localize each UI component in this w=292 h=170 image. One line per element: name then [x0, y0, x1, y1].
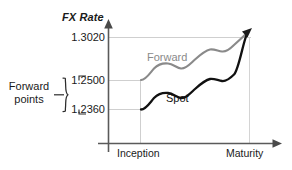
x-tick-label-inception: Inception — [117, 148, 160, 159]
forward-points-line1: Forward — [9, 80, 49, 92]
y-tick-label-top: 1.3020 — [47, 32, 105, 43]
x-tick-label-maturity: Maturity — [226, 148, 263, 159]
fx-rate-forward-spot-chart: FX Rate 1.3020 1.2500 1.2360 Forward poi… — [0, 0, 292, 170]
y-tick-label-mid: 1.2500 — [47, 75, 105, 86]
x-axis-arrowhead — [273, 139, 283, 148]
series-label-forward: Forward — [147, 52, 187, 63]
series-line-spot — [141, 32, 248, 110]
y-axis-title: FX Rate — [62, 12, 104, 23]
y-tick-label-bottom: 1.2360 — [47, 104, 105, 115]
forward-points-annotation: Forward points — [5, 80, 53, 106]
series-label-spot: Spot — [166, 93, 189, 104]
y-axis-arrowhead — [104, 19, 113, 29]
forward-points-line2: points — [14, 93, 43, 105]
